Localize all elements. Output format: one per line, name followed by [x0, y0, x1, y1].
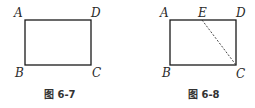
rectangle-abcd — [25, 20, 91, 65]
vertex-label-d: D — [90, 6, 101, 20]
diagram-canvas: A D B C 图 6-7 A E D B C 图 6-8 — [0, 0, 255, 108]
vertex-label-c: C — [92, 66, 101, 80]
figure-caption: 图 6-8 — [188, 89, 220, 100]
vertex-label-b: B — [14, 66, 24, 80]
rectangle-abcd — [170, 20, 236, 65]
vertex-label-c: C — [236, 67, 245, 81]
vertex-label-b: B — [161, 66, 171, 80]
vertex-label-e: E — [197, 6, 207, 20]
vertex-label-a: A — [159, 6, 169, 20]
figure-6-7: A D B C 图 6-7 — [13, 6, 101, 100]
dashed-segment-ec — [202, 20, 236, 65]
vertex-label-d: D — [235, 6, 246, 20]
figure-caption: 图 6-7 — [44, 89, 76, 100]
figure-6-8: A E D B C 图 6-8 — [159, 6, 246, 100]
vertex-label-a: A — [13, 6, 23, 20]
